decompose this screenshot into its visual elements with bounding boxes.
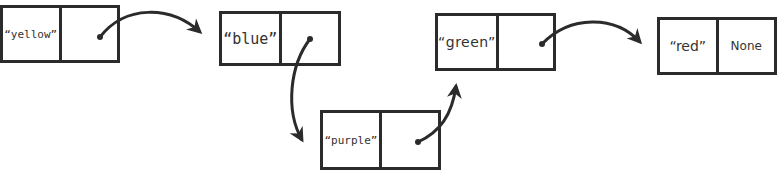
node-blue-next-pointer <box>282 14 339 63</box>
node-red-next-none: None <box>719 20 775 72</box>
node-purple-value: “purple” <box>323 113 382 167</box>
node-blue-value: “blue” <box>222 14 282 63</box>
node-yellow-next-pointer <box>62 8 118 60</box>
node-purple-next-pointer <box>382 113 438 167</box>
node-yellow-value: “yellow” <box>3 8 62 60</box>
node-green-next-pointer <box>499 16 553 68</box>
arrow-icon <box>542 22 640 44</box>
node-purple: “purple” <box>320 110 441 170</box>
node-red: “red” None <box>657 17 777 75</box>
linked-list-diagram: “yellow” “blue” “purple” “green” “red” N… <box>0 0 783 176</box>
node-blue: “blue” <box>219 11 341 66</box>
node-red-value: “red” <box>660 20 719 72</box>
node-green: “green” <box>435 13 556 71</box>
node-green-value: “green” <box>438 16 499 68</box>
node-yellow: “yellow” <box>0 5 120 63</box>
